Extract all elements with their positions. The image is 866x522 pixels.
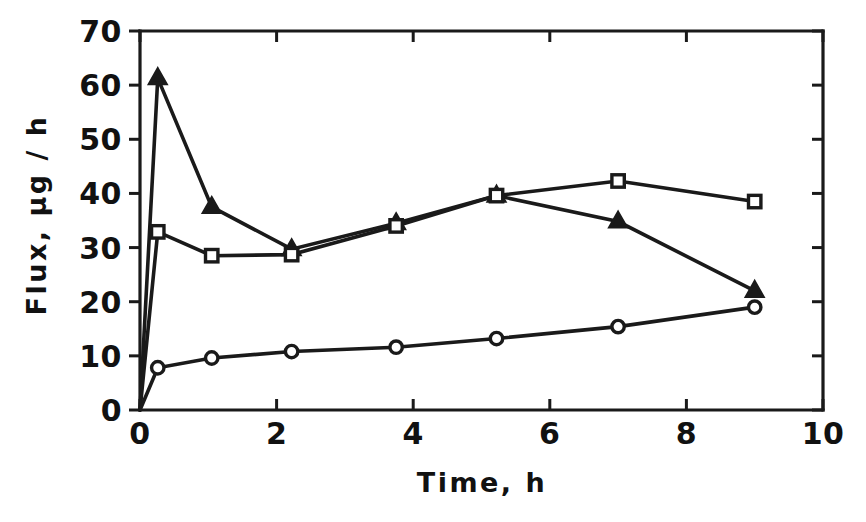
- y-axis-tick-label: 50: [79, 122, 122, 157]
- chart-figure: 0102030405060700246810 Time, h Flux, µg …: [0, 0, 866, 522]
- data-series-group: [140, 78, 755, 410]
- data-point-circle: [490, 332, 502, 344]
- data-point-circle: [390, 341, 402, 353]
- tick-labels-group: 0102030405060700246810: [79, 14, 844, 451]
- x-axis-tick-label: 0: [129, 416, 150, 451]
- y-axis-tick-label: 70: [79, 14, 122, 49]
- series-line-open-square: [140, 181, 755, 410]
- y-axis-tick-label: 60: [79, 68, 122, 103]
- y-axis-title: Flux, µg / h: [21, 114, 52, 315]
- data-point-square: [390, 220, 402, 232]
- axes-group: [140, 31, 823, 410]
- x-axis-tick-label: 6: [539, 416, 560, 451]
- data-point-square: [152, 226, 164, 238]
- y-axis-tick-label: 10: [79, 339, 122, 374]
- x-axis-tick-label: 4: [403, 416, 424, 451]
- axis-spines: [140, 31, 823, 410]
- data-point-square: [285, 248, 297, 260]
- data-point-triangle: [204, 198, 220, 212]
- data-point-triangle: [747, 282, 763, 296]
- data-point-circle: [152, 362, 164, 374]
- data-point-square: [490, 189, 502, 201]
- series-line-open-circle: [140, 307, 755, 410]
- data-point-circle: [749, 301, 761, 313]
- data-point-square: [612, 175, 624, 187]
- y-axis-tick-label: 0: [101, 393, 122, 428]
- x-axis-tick-label: 8: [676, 416, 697, 451]
- data-point-square: [206, 249, 218, 261]
- x-axis-title: Time, h: [417, 467, 548, 498]
- series-line-filled-triangle: [140, 78, 755, 410]
- y-axis-tick-label: 40: [79, 176, 122, 211]
- x-axis-tick-label: 10: [802, 416, 845, 451]
- ticks-group: [129, 31, 823, 410]
- data-point-triangle: [610, 213, 626, 227]
- x-axis-tick-label: 2: [266, 416, 287, 451]
- y-axis-tick-label: 20: [79, 285, 122, 320]
- data-point-triangle: [150, 70, 166, 84]
- data-point-square: [749, 195, 761, 207]
- y-axis-tick-label: 30: [79, 231, 122, 266]
- data-point-circle: [612, 320, 624, 332]
- data-point-circle: [285, 345, 297, 357]
- chart-canvas: 0102030405060700246810 Time, h Flux, µg …: [0, 0, 866, 522]
- data-point-circle: [206, 352, 218, 364]
